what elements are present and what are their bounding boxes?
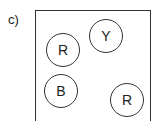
circle-r-2: R [110, 83, 144, 117]
circle-r-1: R [46, 33, 80, 67]
panel-label: c) [8, 12, 19, 27]
circle-b: B [44, 74, 78, 108]
circle-y: Y [89, 19, 123, 53]
